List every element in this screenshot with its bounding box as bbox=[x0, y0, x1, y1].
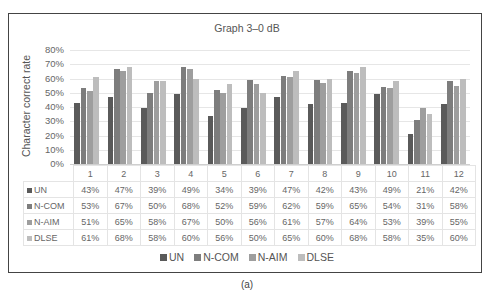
table-cell: 60% bbox=[174, 230, 208, 246]
bar-dlse-10 bbox=[393, 81, 399, 164]
data-table: 123456789101112UN43%47%39%49%34%39%47%42… bbox=[23, 165, 476, 246]
y-tick-label: 50% bbox=[28, 87, 64, 98]
legend-swatch-icon bbox=[27, 236, 32, 241]
table-cell: 68% bbox=[342, 230, 376, 246]
bar-n-aim-2 bbox=[120, 71, 126, 164]
bar-n-aim-4 bbox=[187, 69, 193, 164]
table-cell: 57% bbox=[308, 214, 342, 230]
table-cell: 47% bbox=[275, 182, 309, 198]
legend-swatch-icon bbox=[249, 254, 256, 261]
y-tick-label: 60% bbox=[28, 73, 64, 84]
bar-un-5 bbox=[208, 116, 214, 164]
bar-n-com-4 bbox=[181, 67, 187, 164]
table-cell: 54% bbox=[375, 198, 409, 214]
bar-n-com-9 bbox=[347, 71, 353, 164]
legend-item: N-AIM bbox=[249, 251, 288, 263]
table-row: N-COM53%67%50%68%52%59%62%59%65%54%31%58… bbox=[24, 198, 476, 214]
table-cell: 58% bbox=[141, 214, 175, 230]
table-cell: 67% bbox=[107, 198, 141, 214]
legend-swatch-icon bbox=[298, 254, 305, 261]
legend-item: N-COM bbox=[194, 251, 239, 263]
gridline bbox=[70, 50, 470, 51]
bar-n-aim-8 bbox=[320, 83, 326, 164]
table-cell: 56% bbox=[241, 214, 275, 230]
bar-n-aim-9 bbox=[354, 73, 360, 164]
table-cell: 53% bbox=[375, 214, 409, 230]
table-cell: 68% bbox=[107, 230, 141, 246]
legend: UNN-COMN-AIMDLSE bbox=[0, 251, 494, 263]
table-cell: 34% bbox=[208, 182, 242, 198]
series-label: UN bbox=[24, 182, 74, 198]
bar-un-11 bbox=[408, 134, 414, 164]
y-tick-label: 70% bbox=[28, 58, 64, 69]
table-cell: 58% bbox=[442, 198, 476, 214]
table-cell: 60% bbox=[442, 230, 476, 246]
table-cell: 50% bbox=[241, 230, 275, 246]
table-cell: 43% bbox=[74, 182, 108, 198]
legend-item: UN bbox=[160, 251, 184, 263]
bar-n-com-5 bbox=[214, 90, 220, 164]
table-cell: 50% bbox=[141, 198, 175, 214]
bar-n-aim-10 bbox=[387, 88, 393, 164]
table-cell: 58% bbox=[375, 230, 409, 246]
gridline bbox=[70, 164, 470, 165]
table-cell: 43% bbox=[342, 182, 376, 198]
table-cell: 50% bbox=[208, 214, 242, 230]
category-label: 11 bbox=[409, 166, 443, 182]
table-cell: 67% bbox=[174, 214, 208, 230]
bar-dlse-5 bbox=[227, 84, 233, 164]
bar-n-com-7 bbox=[281, 76, 287, 164]
chart-title: Graph 3–0 dB bbox=[0, 22, 494, 34]
category-label: 9 bbox=[342, 166, 376, 182]
category-label: 12 bbox=[442, 166, 476, 182]
category-label: 10 bbox=[375, 166, 409, 182]
table-cell: 68% bbox=[174, 198, 208, 214]
legend-swatch-icon bbox=[27, 204, 32, 209]
bar-dlse-9 bbox=[360, 67, 366, 164]
category-label: 2 bbox=[107, 166, 141, 182]
table-cell: 65% bbox=[275, 230, 309, 246]
bar-n-aim-11 bbox=[420, 108, 426, 164]
bar-n-aim-5 bbox=[220, 93, 226, 164]
figure-caption: (a) bbox=[0, 279, 494, 290]
bar-un-12 bbox=[441, 104, 447, 164]
table-cell: 61% bbox=[275, 214, 309, 230]
table-cell: 31% bbox=[409, 198, 443, 214]
bar-n-com-10 bbox=[381, 87, 387, 164]
bar-un-9 bbox=[341, 103, 347, 164]
table-row: DLSE61%68%58%60%56%50%65%60%68%58%35%60% bbox=[24, 230, 476, 246]
table-cell: 47% bbox=[107, 182, 141, 198]
y-tick-label: 0% bbox=[28, 158, 64, 169]
series-label: DLSE bbox=[24, 230, 74, 246]
table-cell: 59% bbox=[241, 198, 275, 214]
y-tick-label: 40% bbox=[28, 101, 64, 112]
category-label: 8 bbox=[308, 166, 342, 182]
bar-un-1 bbox=[74, 103, 80, 164]
category-label: 5 bbox=[208, 166, 242, 182]
table-cell: 39% bbox=[141, 182, 175, 198]
bar-un-7 bbox=[274, 97, 280, 164]
bar-n-com-12 bbox=[447, 81, 453, 164]
y-tick-label: 80% bbox=[28, 44, 64, 55]
table-cell: 49% bbox=[375, 182, 409, 198]
bar-dlse-3 bbox=[160, 81, 166, 164]
legend-swatch-icon bbox=[160, 254, 167, 261]
table-row: N-AIM51%65%58%67%50%56%61%57%64%53%39%55… bbox=[24, 214, 476, 230]
category-label: 4 bbox=[174, 166, 208, 182]
bar-un-3 bbox=[141, 108, 147, 164]
bar-dlse-8 bbox=[327, 79, 333, 165]
bar-n-aim-6 bbox=[254, 84, 260, 164]
bar-un-2 bbox=[108, 97, 114, 164]
table-cell: 51% bbox=[74, 214, 108, 230]
legend-swatch-icon bbox=[27, 220, 32, 225]
bar-n-com-1 bbox=[81, 88, 87, 164]
table-cell: 58% bbox=[141, 230, 175, 246]
bar-un-10 bbox=[374, 94, 380, 164]
bar-n-com-6 bbox=[247, 80, 253, 164]
bar-n-com-8 bbox=[314, 80, 320, 164]
category-label: 6 bbox=[241, 166, 275, 182]
table-cell: 61% bbox=[74, 230, 108, 246]
bar-n-aim-1 bbox=[87, 91, 93, 164]
legend-swatch-icon bbox=[194, 254, 201, 261]
bar-n-aim-3 bbox=[154, 81, 160, 164]
